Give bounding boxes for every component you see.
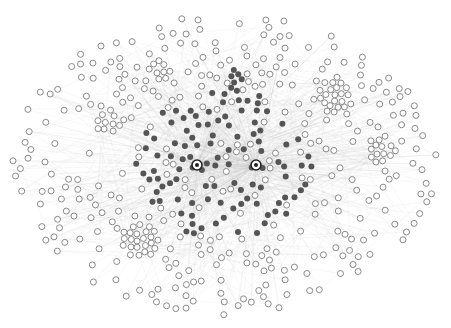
peripheral-node[interactable] bbox=[108, 192, 114, 198]
core-node[interactable] bbox=[251, 131, 257, 137]
core-node[interactable] bbox=[295, 136, 301, 142]
peripheral-node[interactable] bbox=[400, 110, 406, 116]
core-node[interactable] bbox=[183, 229, 189, 235]
core-node[interactable] bbox=[160, 110, 166, 116]
peripheral-node[interactable] bbox=[348, 101, 354, 107]
peripheral-node[interactable] bbox=[252, 192, 258, 198]
core-node[interactable] bbox=[221, 215, 227, 221]
peripheral-node[interactable] bbox=[340, 253, 346, 259]
peripheral-node[interactable] bbox=[186, 268, 192, 274]
core-node[interactable] bbox=[181, 115, 187, 121]
core-node[interactable] bbox=[230, 206, 236, 212]
core-node[interactable] bbox=[159, 184, 165, 190]
peripheral-node[interactable] bbox=[155, 94, 161, 100]
peripheral-node[interactable] bbox=[259, 70, 265, 76]
core-node[interactable] bbox=[226, 161, 232, 167]
core-node[interactable] bbox=[210, 133, 216, 139]
core-node[interactable] bbox=[308, 163, 314, 169]
peripheral-node[interactable] bbox=[55, 86, 61, 92]
peripheral-node[interactable] bbox=[123, 293, 129, 299]
peripheral-node[interactable] bbox=[25, 106, 31, 112]
peripheral-node[interactable] bbox=[110, 128, 116, 134]
peripheral-node[interactable] bbox=[120, 242, 126, 248]
peripheral-node[interactable] bbox=[370, 86, 376, 92]
core-node[interactable] bbox=[172, 140, 178, 146]
core-node[interactable] bbox=[196, 122, 202, 128]
peripheral-node[interactable] bbox=[90, 60, 96, 66]
peripheral-node[interactable] bbox=[77, 236, 83, 242]
peripheral-node[interactable] bbox=[183, 293, 189, 299]
peripheral-node[interactable] bbox=[368, 154, 374, 160]
core-node[interactable] bbox=[150, 199, 156, 205]
peripheral-node[interactable] bbox=[108, 59, 114, 65]
peripheral-node[interactable] bbox=[178, 40, 184, 46]
peripheral-node[interactable] bbox=[277, 55, 283, 61]
peripheral-node[interactable] bbox=[333, 245, 339, 251]
peripheral-node[interactable] bbox=[134, 231, 140, 237]
peripheral-node[interactable] bbox=[263, 17, 269, 23]
core-node[interactable] bbox=[182, 143, 188, 149]
core-node[interactable] bbox=[234, 88, 240, 94]
peripheral-node[interactable] bbox=[265, 301, 271, 307]
peripheral-node[interactable] bbox=[173, 260, 179, 266]
core-node[interactable] bbox=[143, 130, 149, 136]
peripheral-node[interactable] bbox=[136, 252, 142, 258]
peripheral-node[interactable] bbox=[164, 303, 170, 309]
peripheral-node[interactable] bbox=[117, 55, 123, 61]
peripheral-node[interactable] bbox=[19, 188, 25, 194]
peripheral-node[interactable] bbox=[146, 224, 152, 230]
core-node[interactable] bbox=[203, 183, 209, 189]
peripheral-node[interactable] bbox=[260, 81, 266, 87]
core-node[interactable] bbox=[302, 182, 308, 188]
peripheral-node[interactable] bbox=[69, 64, 75, 70]
peripheral-node[interactable] bbox=[173, 285, 179, 291]
core-node[interactable] bbox=[143, 145, 149, 151]
peripheral-node[interactable] bbox=[148, 251, 154, 257]
peripheral-node[interactable] bbox=[277, 235, 283, 241]
peripheral-node[interactable] bbox=[146, 66, 152, 72]
peripheral-node[interactable] bbox=[83, 93, 89, 99]
peripheral-node[interactable] bbox=[143, 78, 149, 84]
core-node[interactable] bbox=[193, 113, 199, 119]
peripheral-node[interactable] bbox=[198, 252, 204, 258]
peripheral-node[interactable] bbox=[306, 44, 312, 50]
core-node[interactable] bbox=[205, 196, 211, 202]
peripheral-node[interactable] bbox=[252, 83, 258, 89]
core-node[interactable] bbox=[226, 123, 232, 129]
peripheral-node[interactable] bbox=[116, 195, 122, 201]
peripheral-node[interactable] bbox=[335, 208, 341, 214]
core-node[interactable] bbox=[238, 187, 244, 193]
peripheral-node[interactable] bbox=[322, 200, 328, 206]
peripheral-node[interactable] bbox=[346, 121, 352, 127]
peripheral-node[interactable] bbox=[147, 124, 153, 130]
peripheral-node[interactable] bbox=[267, 165, 273, 171]
peripheral-node[interactable] bbox=[317, 87, 323, 93]
peripheral-node[interactable] bbox=[350, 139, 356, 145]
peripheral-node[interactable] bbox=[332, 92, 338, 98]
core-node[interactable] bbox=[151, 168, 157, 174]
peripheral-node[interactable] bbox=[359, 83, 365, 89]
core-node[interactable] bbox=[257, 128, 263, 134]
core-node[interactable] bbox=[173, 108, 179, 114]
peripheral-node[interactable] bbox=[312, 211, 318, 217]
peripheral-node[interactable] bbox=[318, 95, 324, 101]
peripheral-node[interactable] bbox=[39, 224, 45, 230]
peripheral-node[interactable] bbox=[284, 202, 290, 208]
peripheral-node[interactable] bbox=[342, 231, 348, 237]
peripheral-node[interactable] bbox=[148, 234, 154, 240]
core-node[interactable] bbox=[279, 121, 285, 127]
core-node[interactable] bbox=[264, 108, 270, 114]
peripheral-node[interactable] bbox=[142, 249, 148, 255]
peripheral-node[interactable] bbox=[152, 245, 158, 251]
core-node[interactable] bbox=[283, 174, 289, 180]
peripheral-node[interactable] bbox=[322, 80, 328, 86]
peripheral-node[interactable] bbox=[319, 66, 325, 72]
peripheral-node[interactable] bbox=[367, 251, 373, 257]
peripheral-node[interactable] bbox=[88, 101, 94, 107]
peripheral-node[interactable] bbox=[156, 76, 162, 82]
peripheral-node[interactable] bbox=[304, 271, 310, 277]
core-node[interactable] bbox=[245, 98, 251, 104]
peripheral-node[interactable] bbox=[355, 128, 361, 134]
peripheral-node[interactable] bbox=[141, 86, 147, 92]
core-node[interactable] bbox=[188, 108, 194, 114]
